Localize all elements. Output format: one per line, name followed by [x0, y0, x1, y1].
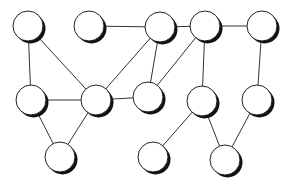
node-circle [16, 85, 46, 115]
node-circle [242, 85, 272, 115]
node-circle [247, 11, 277, 41]
node-n13 [210, 145, 243, 178]
node-circle [145, 12, 175, 42]
node-n2 [74, 11, 107, 44]
node-n9 [187, 86, 220, 119]
node-n11 [45, 142, 78, 175]
node-circle [187, 86, 217, 116]
nodes-layer [13, 11, 280, 178]
node-circle [138, 142, 168, 172]
node-n10 [242, 85, 275, 118]
graph-diagram [0, 0, 290, 184]
node-circle [45, 142, 75, 172]
node-n7 [81, 85, 114, 118]
node-circle [81, 85, 111, 115]
node-circle [210, 145, 240, 175]
node-circle [74, 11, 104, 41]
node-circle [190, 11, 220, 41]
node-circle [133, 82, 163, 112]
node-n8 [133, 82, 166, 115]
node-n12 [138, 142, 171, 175]
node-n3 [145, 12, 178, 45]
node-circle [13, 11, 43, 41]
node-n1 [13, 11, 46, 44]
node-n5 [247, 11, 280, 44]
node-n6 [16, 85, 49, 118]
